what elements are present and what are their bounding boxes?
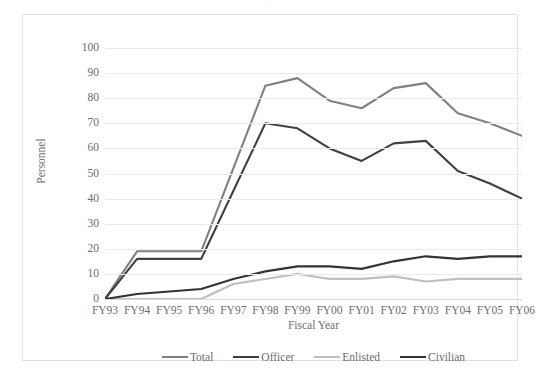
chart-legend: TotalOfficerEnlistedCivilian <box>105 351 522 363</box>
y-axis-tick-10: 10 <box>39 268 99 280</box>
legend-swatch-officer-icon <box>233 356 259 359</box>
chart-frame: 0102030405060708090100 Personnel FY93FY9… <box>22 14 518 361</box>
legend-item-enlisted[interactable]: Enlisted <box>314 351 380 363</box>
plot-area <box>105 48 522 299</box>
gridline <box>105 123 522 124</box>
series-line-enlisted <box>105 274 522 299</box>
clipped-chart-title: · <box>0 0 540 10</box>
y-axis-tick-80: 80 <box>39 92 99 104</box>
legend-label: Civilian <box>428 351 465 363</box>
x-axis-tick-fy06: FY06 <box>499 303 540 317</box>
gridline <box>105 199 522 200</box>
y-axis-tick-20: 20 <box>39 243 99 255</box>
gridline <box>105 148 522 149</box>
y-axis-tick-70: 70 <box>39 117 99 129</box>
gridline <box>105 224 522 225</box>
legend-label: Enlisted <box>342 351 380 363</box>
y-axis-tick-50: 50 <box>39 168 99 180</box>
legend-item-total[interactable]: Total <box>162 351 213 363</box>
chart-figure: · 0102030405060708090100 Personnel FY93F… <box>0 0 540 381</box>
legend-label: Total <box>190 351 213 363</box>
gridline <box>105 48 522 49</box>
legend-item-civilian[interactable]: Civilian <box>400 351 465 363</box>
gridline <box>105 174 522 175</box>
gridline <box>105 73 522 74</box>
gridline <box>105 98 522 99</box>
legend-swatch-total-icon <box>162 356 188 359</box>
legend-swatch-enlisted-icon <box>314 356 340 359</box>
x-axis-title: Fiscal Year <box>105 319 522 331</box>
legend-item-officer[interactable]: Officer <box>233 351 294 363</box>
x-axis-tick-labels: FY93FY94FY95FY96FY97FY98FY99FY00FY01FY02… <box>105 303 522 319</box>
gridline <box>105 249 522 250</box>
y-axis-title: Personnel <box>35 96 47 226</box>
y-axis-tick-100: 100 <box>39 42 99 54</box>
gridline <box>105 274 522 275</box>
series-line-civilian <box>105 256 522 299</box>
y-axis-tick-90: 90 <box>39 67 99 79</box>
legend-swatch-civilian-icon <box>400 356 426 359</box>
series-line-officer <box>105 123 522 299</box>
legend-label: Officer <box>261 351 294 363</box>
x-axis-line <box>105 299 522 300</box>
y-axis-tick-40: 40 <box>39 193 99 205</box>
y-axis-tick-60: 60 <box>39 142 99 154</box>
y-axis-tick-30: 30 <box>39 218 99 230</box>
